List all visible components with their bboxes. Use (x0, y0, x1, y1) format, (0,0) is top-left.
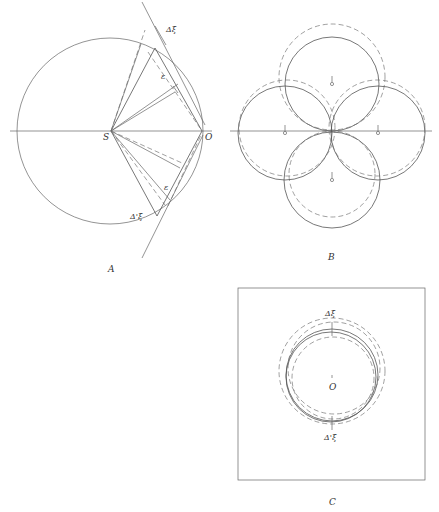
label-delta-prime-xi: Δ'ξ (129, 212, 143, 221)
label-delta-xi: Δξ (324, 309, 336, 318)
caption-b: B (327, 252, 335, 262)
label-o: O (329, 382, 337, 392)
marker-top (330, 76, 333, 86)
circle-right-dashed (329, 80, 425, 176)
circle-solid-2 (286, 332, 376, 422)
ray (111, 92, 175, 131)
label-epsilon-upper: ε (161, 72, 165, 81)
circle-left-dashed (239, 80, 335, 176)
panel-a: S O Δξ Δ'ξ ε ε A (10, 2, 213, 274)
circle-bottom (284, 132, 380, 228)
marker-bottom (330, 172, 333, 182)
marker-right (376, 125, 379, 135)
circle-left (238, 86, 332, 180)
panel-c: Δξ O Δ'ξ C (238, 288, 425, 507)
chord (155, 48, 202, 131)
caption-a: A (107, 264, 115, 274)
diagram-canvas: S O Δξ Δ'ξ ε ε A (0, 0, 439, 512)
ray (111, 131, 170, 200)
label-delta-xi: Δξ (165, 25, 177, 34)
ray (111, 131, 157, 216)
panel-b: B (230, 24, 432, 262)
label-delta-prime-xi: Δ'ξ (323, 433, 337, 442)
circle-top (285, 37, 379, 131)
chord-dashed (168, 135, 201, 206)
label-o: O (205, 132, 213, 142)
caption-c: C (329, 497, 336, 507)
chord (157, 131, 202, 216)
ray (111, 84, 178, 131)
delta-xi-marker (155, 26, 166, 45)
circle-dashed-mid (288, 322, 380, 414)
ray-dashed (111, 131, 165, 205)
marker-left (283, 125, 286, 135)
circle-dashed-inner (292, 337, 374, 419)
ray-dashed (111, 131, 182, 163)
ray (111, 48, 155, 131)
label-s: S (103, 132, 109, 142)
label-epsilon-lower: ε (164, 183, 168, 192)
ray (111, 44, 141, 131)
